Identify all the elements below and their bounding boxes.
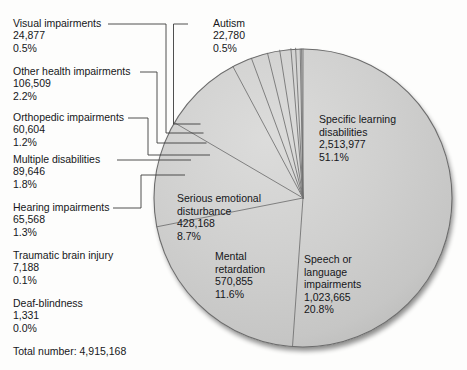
inpie-value-mental-retardation: 570,855 [215, 275, 265, 288]
inpie-label-speech-or-language-impairments: Speech or language impairments 1,023,665… [304, 253, 361, 316]
callout-percent-deaf-blindness: 0.0% [13, 322, 83, 334]
inpie-line2-speech-or-language-impairments: language [304, 266, 361, 279]
inpie-percent-serious-emotional-disturbance: 8.7% [177, 230, 261, 243]
callout-label-orthopedic-impairments: Orthopedic impairments [13, 111, 124, 123]
inpie-value-serious-emotional-disturbance: 428,168 [177, 217, 261, 230]
callout-percent-autism: 0.5% [213, 42, 245, 54]
callout-percent-other-health-impairments: 2.2% [13, 90, 130, 102]
inpie-percent-speech-or-language-impairments: 20.8% [304, 303, 361, 316]
inpie-line3-speech-or-language-impairments: impairments [304, 278, 361, 291]
callout-label-deaf-blindness: Deaf-blindness [13, 297, 83, 309]
callout-label-hearing-impairments: Hearing impairments [13, 201, 110, 213]
callout-value-orthopedic-impairments: 60,604 [13, 123, 124, 135]
inpie-percent-mental-retardation: 11.6% [215, 288, 265, 301]
inpie-line2-specific-learning-disabilities: disabilities [319, 126, 396, 139]
inpie-percent-specific-learning-disabilities: 51.1% [319, 151, 396, 164]
callout-value-visual-impairments: 24,877 [13, 29, 101, 41]
callout-label-visual-impairments: Visual impairments [13, 17, 101, 29]
inpie-line1-specific-learning-disabilities: Specific learning [319, 113, 396, 126]
inpie-line1-speech-or-language-impairments: Speech or [304, 253, 361, 266]
callout-other-health-impairments: Other health impairments 106,509 2.2% [13, 65, 130, 102]
inpie-line2-mental-retardation: retardation [215, 263, 265, 276]
inpie-value-specific-learning-disabilities: 2,513,977 [319, 138, 396, 151]
callout-visual-impairments: Visual impairments 24,877 0.5% [13, 17, 101, 54]
callout-label-traumatic-brain-injury: Traumatic brain injury [13, 249, 113, 261]
callout-percent-visual-impairments: 0.5% [13, 42, 101, 54]
callout-value-other-health-impairments: 106,509 [13, 77, 130, 89]
total-number-label: Total number: 4,915,168 [13, 345, 126, 357]
callout-percent-traumatic-brain-injury: 0.1% [13, 274, 113, 286]
inpie-label-mental-retardation: Mental retardation 570,855 11.6% [215, 250, 265, 300]
inpie-line1-mental-retardation: Mental [215, 250, 265, 263]
inpie-label-serious-emotional-disturbance: Serious emotional disturbance 428,168 8.… [177, 192, 261, 242]
callout-label-other-health-impairments: Other health impairments [13, 65, 130, 77]
callout-traumatic-brain-injury: Traumatic brain injury 7,188 0.1% [13, 249, 113, 286]
callout-label-autism: Autism [213, 17, 245, 29]
callout-percent-hearing-impairments: 1.3% [13, 226, 110, 238]
pie-chart-figure: Visual impairments 24,877 0.5% Other hea… [0, 0, 467, 370]
inpie-line1-serious-emotional-disturbance: Serious emotional [177, 192, 261, 205]
callout-value-multiple-disabilities: 89,646 [13, 165, 100, 177]
callout-percent-multiple-disabilities: 1.8% [13, 178, 100, 190]
callout-deaf-blindness: Deaf-blindness 1,331 0.0% [13, 297, 83, 334]
callout-multiple-disabilities: Multiple disabilities 89,646 1.8% [13, 153, 100, 190]
callout-value-traumatic-brain-injury: 7,188 [13, 261, 113, 273]
inpie-line2-serious-emotional-disturbance: disturbance [177, 205, 261, 218]
callout-value-autism: 22,780 [213, 29, 245, 41]
inpie-value-speech-or-language-impairments: 1,023,665 [304, 291, 361, 304]
inpie-label-specific-learning-disabilities: Specific learning disabilities 2,513,977… [319, 113, 396, 163]
callout-value-deaf-blindness: 1,331 [13, 309, 83, 321]
callout-orthopedic-impairments: Orthopedic impairments 60,604 1.2% [13, 111, 124, 148]
callout-percent-orthopedic-impairments: 1.2% [13, 136, 124, 148]
callout-autism: Autism 22,780 0.5% [213, 17, 245, 54]
callout-value-hearing-impairments: 65,568 [13, 213, 110, 225]
callout-label-multiple-disabilities: Multiple disabilities [13, 153, 100, 165]
callout-hearing-impairments: Hearing impairments 65,568 1.3% [13, 201, 110, 238]
